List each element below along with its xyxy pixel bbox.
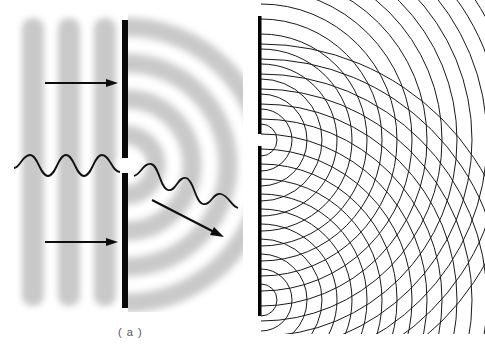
- diffraction-figure: ( a ): [0, 0, 485, 352]
- slit-glow: [113, 151, 147, 177]
- panel-b-background: [243, 0, 485, 352]
- panel-a-label: ( a ): [118, 326, 143, 338]
- barrier-with-slit: [258, 16, 262, 316]
- plane-wavefront-bands: [22, 18, 116, 306]
- barrier-lower-segment: [258, 146, 262, 316]
- barrier-lower-segment: [122, 173, 128, 308]
- panel-a-graphic: [0, 0, 243, 352]
- barrier-upper-segment: [122, 20, 128, 158]
- barrier-upper-segment: [258, 16, 262, 134]
- panel-b-line-drawing: ( b ): [243, 0, 485, 352]
- panel-b-graphic: [243, 0, 485, 352]
- panel-a-photograph: ( a ): [0, 0, 243, 352]
